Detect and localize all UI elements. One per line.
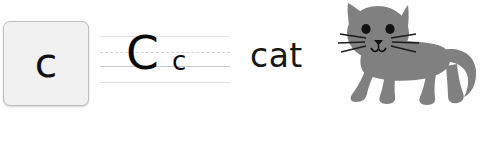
letter-tile[interactable]: c <box>3 21 89 106</box>
practice-letters: C c <box>100 30 230 88</box>
letter-tile-glyph: c <box>4 22 88 105</box>
cat-eye-right <box>385 24 394 34</box>
practice-letter-uppercase: C <box>126 29 159 77</box>
cat-illustration <box>330 0 484 112</box>
word-label: cat <box>250 39 303 72</box>
practice-letter-lowercase: c <box>172 44 186 78</box>
cat-eye-left <box>361 24 370 34</box>
cat-shape <box>338 3 476 105</box>
